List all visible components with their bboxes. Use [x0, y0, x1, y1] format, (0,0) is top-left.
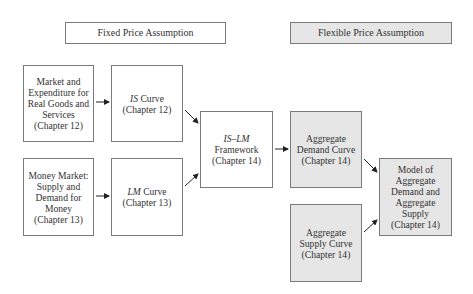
node-title-rest: Curve	[141, 186, 167, 197]
node-text-line: Demand and	[391, 186, 440, 197]
node-title: LM Curve	[127, 186, 166, 197]
node-text-line: (Chapter 13)	[34, 214, 83, 225]
node-text-line: (Chapter 14)	[212, 155, 261, 166]
lm-curve-node: LM Curve (Chapter 13)	[111, 158, 183, 236]
aggregate-demand-node: Aggregate Demand Curve (Chapter 14)	[290, 111, 362, 188]
node-text-line: Expenditure for	[28, 87, 88, 98]
node-text-line: Aggregate	[306, 227, 346, 238]
node-text-line: (Chapter 14)	[302, 249, 351, 260]
node-text-line: (Chapter 14)	[302, 155, 351, 166]
node-title: IS Curve	[130, 93, 164, 104]
node-text-line: Supply and	[37, 181, 80, 192]
aggregate-supply-node: Aggregate Supply Curve (Chapter 14)	[290, 204, 362, 282]
node-text-line: Demand for	[35, 192, 81, 203]
is-lm-framework-node: IS–LM Framework (Chapter 14)	[200, 111, 273, 188]
is-curve-node: IS Curve (Chapter 12)	[111, 65, 183, 142]
node-text-line: (Chapter 14)	[391, 219, 440, 230]
fixed-price-header: Fixed Price Assumption	[65, 22, 226, 44]
node-text-line: Aggregate	[396, 175, 436, 186]
node-text-line: Aggregate	[306, 133, 346, 144]
ad-as-model-node: Model of Aggregate Demand and Aggregate …	[379, 158, 452, 236]
flexible-price-header-label: Flexible Price Assumption	[318, 27, 424, 39]
node-title-italic: IS–LM	[223, 133, 249, 144]
arrow-ad-to-model	[364, 159, 377, 172]
node-text-line: Supply Curve	[299, 238, 352, 249]
node-text-line: (Chapter 12)	[34, 120, 83, 131]
node-text-line: Supply	[402, 208, 429, 219]
node-text-line: Money	[45, 203, 72, 214]
money-market-node: Money Market: Supply and Demand for Mone…	[23, 158, 94, 236]
node-text-line: Market and	[37, 76, 81, 87]
node-text-line: Framework	[214, 144, 258, 155]
arrow-is-to-islm	[185, 110, 198, 123]
node-title-rest: Curve	[138, 93, 164, 104]
node-chapter: (Chapter 13)	[123, 197, 172, 208]
node-text-line: Model of	[398, 164, 433, 175]
node-text-line: Demand Curve	[297, 144, 355, 155]
arrow-as-to-model	[364, 220, 377, 232]
node-text-line: Aggregate	[396, 197, 436, 208]
node-chapter: (Chapter 12)	[123, 104, 172, 115]
node-title-italic: LM	[127, 186, 140, 197]
node-title-italic: IS	[130, 93, 138, 104]
goods-market-node: Market and Expenditure for Real Goods an…	[23, 65, 94, 142]
fixed-price-header-label: Fixed Price Assumption	[97, 27, 193, 39]
flexible-price-header: Flexible Price Assumption	[290, 22, 452, 44]
node-text-line: Services	[42, 109, 75, 120]
node-text-line: Real Goods and	[28, 98, 89, 109]
arrow-lm-to-islm	[185, 174, 198, 186]
node-text-line: Money Market:	[29, 170, 89, 181]
